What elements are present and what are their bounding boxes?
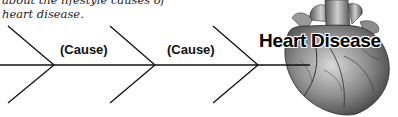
effect-label: Heart Disease (259, 30, 381, 52)
bone-top-3 (213, 26, 258, 65)
cause-label-1: (Cause) (60, 42, 108, 57)
bone-bottom-3 (213, 65, 258, 103)
bone-top-1 (8, 26, 54, 65)
bone-top-2 (110, 26, 155, 65)
bone-bottom-2 (110, 65, 155, 103)
fishbone-diagram (0, 0, 398, 117)
bone-bottom-1 (8, 65, 54, 103)
cause-label-2: (Cause) (167, 42, 215, 57)
